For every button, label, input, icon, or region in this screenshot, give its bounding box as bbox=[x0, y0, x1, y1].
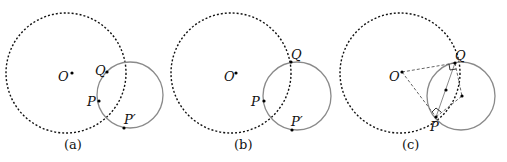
label-Q: Q bbox=[95, 63, 106, 78]
geometry-figure: O Q P P′ (a) O Q P P′ (b) O bbox=[0, 0, 507, 162]
line-OQ bbox=[402, 63, 455, 72]
label-P: P bbox=[250, 94, 260, 109]
label-Q: Q bbox=[455, 48, 466, 63]
panel-c: O Q P (c) bbox=[340, 13, 495, 152]
label-P-prime: P′ bbox=[123, 112, 136, 127]
panel-a: O Q P P′ (a) bbox=[6, 13, 163, 152]
caption-b: (b) bbox=[234, 137, 252, 152]
caption-a: (a) bbox=[64, 137, 82, 152]
point-O bbox=[70, 71, 73, 74]
dashed-circle bbox=[340, 13, 460, 133]
label-O: O bbox=[58, 69, 69, 84]
panel-b: O Q P P′ (b) bbox=[171, 13, 331, 152]
label-Q: Q bbox=[291, 47, 302, 62]
caption-c: (c) bbox=[402, 137, 419, 152]
label-O: O bbox=[389, 69, 400, 84]
point-Q bbox=[105, 70, 108, 73]
label-P-prime: P′ bbox=[290, 114, 303, 129]
label-O: O bbox=[224, 69, 235, 84]
label-P: P bbox=[429, 119, 439, 134]
point-O bbox=[234, 71, 237, 74]
point-midpoint bbox=[444, 88, 447, 91]
point-P bbox=[97, 99, 100, 102]
point-center bbox=[460, 94, 463, 97]
right-angle-P bbox=[432, 108, 441, 112]
label-P: P bbox=[86, 94, 96, 109]
line-Q-center bbox=[455, 63, 462, 96]
point-O bbox=[400, 70, 403, 73]
line-OP bbox=[402, 72, 436, 117]
point-P bbox=[262, 99, 265, 102]
